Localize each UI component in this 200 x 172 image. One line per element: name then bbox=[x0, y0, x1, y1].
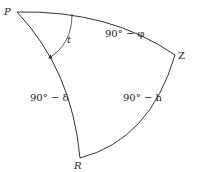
triangle-arcs bbox=[0, 0, 200, 172]
arc-rz bbox=[80, 55, 175, 158]
vertex-z-label: Z bbox=[178, 50, 185, 61]
vertex-p-label: P bbox=[4, 6, 11, 17]
vertex-r-label: R bbox=[74, 160, 82, 171]
side-pz-label: 90° − φ bbox=[105, 28, 144, 39]
spherical-triangle-diagram: P Z R 90° − φ 90° − δ 90° − h t bbox=[0, 0, 200, 172]
side-pr-label: 90° − δ bbox=[30, 92, 68, 103]
angle-t-label: t bbox=[67, 34, 71, 45]
side-zr-label: 90° − h bbox=[123, 92, 162, 103]
arc-pz bbox=[17, 12, 175, 55]
